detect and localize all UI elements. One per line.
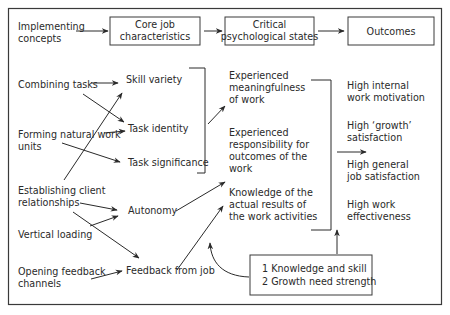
svg-text:of work: of work: [229, 94, 265, 105]
concept-vertical-loading: Vertical loading: [18, 229, 92, 240]
svg-text:channels: channels: [18, 278, 61, 289]
arrows-concepts-to-characteristics: [62, 83, 139, 279]
svg-text:Critical: Critical: [253, 19, 287, 30]
svg-text:Experienced: Experienced: [229, 127, 289, 138]
characteristic-task-identity: Task identity: [127, 123, 189, 134]
svg-text:work: work: [229, 163, 253, 174]
svg-text:effectiveness: effectiveness: [347, 211, 411, 222]
svg-text:concepts: concepts: [18, 33, 61, 44]
characteristic-task-significance: Task significance: [127, 157, 209, 168]
state-knowledge-of-results: Knowledge of the actual results of the w…: [229, 187, 317, 222]
svg-text:the work activities: the work activities: [229, 211, 317, 222]
svg-text:work motivation: work motivation: [347, 92, 425, 103]
outcome-general-job-satisfaction: High general job satisfaction: [346, 159, 420, 182]
svg-text:outcomes of the: outcomes of the: [229, 151, 307, 162]
svg-text:units: units: [18, 141, 42, 152]
svg-text:Outcomes: Outcomes: [367, 26, 416, 37]
diagram-frame: [9, 9, 442, 305]
outcome-work-effectiveness: High work effectiveness: [347, 199, 411, 222]
svg-text:job satisfaction: job satisfaction: [346, 171, 420, 182]
header-outcomes-box: Outcomes: [348, 17, 434, 45]
arrow-moderators-curved: [210, 243, 249, 277]
header-core-job-characteristics-box: Core job characteristics: [110, 17, 200, 45]
characteristic-skill-variety: Skill variety: [126, 74, 183, 85]
characteristic-feedback-from-job: Feedback from job: [126, 265, 215, 276]
svg-text:Core job: Core job: [135, 19, 175, 30]
header-critical-psychological-states-box: Critical psychological states: [221, 17, 318, 45]
svg-text:relationships: relationships: [18, 197, 79, 208]
characteristic-autonomy: Autonomy: [128, 205, 178, 216]
svg-text:High general: High general: [347, 159, 409, 170]
svg-text:Knowledge of the: Knowledge of the: [229, 187, 313, 198]
svg-text:satisfaction: satisfaction: [347, 132, 402, 143]
svg-text:1 Knowledge and skill: 1 Knowledge and skill: [262, 263, 367, 274]
bracket-psychological-states: [311, 80, 331, 230]
moderators-box: 1 Knowledge and skill 2 Growth need stre…: [250, 255, 376, 295]
svg-text:Implementing: Implementing: [18, 21, 85, 32]
svg-text:characteristics: characteristics: [120, 31, 190, 42]
svg-text:2 Growth need strength: 2 Growth need strength: [262, 276, 376, 287]
svg-text:psychological states: psychological states: [221, 31, 318, 42]
header-implementing-concepts: Implementing concepts: [18, 21, 85, 44]
state-experienced-responsibility: Experienced responsibility for outcomes …: [229, 127, 309, 174]
outcome-growth-satisfaction: High ‘growth’ satisfaction: [347, 120, 412, 143]
concept-establishing-client-relationships: Establishing client: [18, 185, 106, 196]
svg-text:High ‘growth’: High ‘growth’: [347, 120, 412, 131]
state-experienced-meaningfulness: Experienced meaningfulness of work: [229, 70, 305, 105]
svg-text:meaningfulness: meaningfulness: [229, 82, 305, 93]
svg-text:responsibility for: responsibility for: [229, 139, 309, 150]
svg-text:Experienced: Experienced: [229, 70, 289, 81]
concept-combining-tasks: Combining tasks: [18, 79, 98, 90]
svg-text:High work: High work: [347, 199, 396, 210]
svg-text:actual results of: actual results of: [229, 199, 307, 210]
concept-opening-feedback-channels: Opening feedback: [18, 266, 106, 277]
concept-forming-natural-work-units: Forming natural work: [18, 129, 121, 140]
outcome-internal-work-motivation: High internal work motivation: [347, 80, 425, 103]
job-characteristics-diagram: Implementing concepts Core job character…: [0, 0, 450, 315]
svg-text:High internal: High internal: [347, 80, 409, 91]
